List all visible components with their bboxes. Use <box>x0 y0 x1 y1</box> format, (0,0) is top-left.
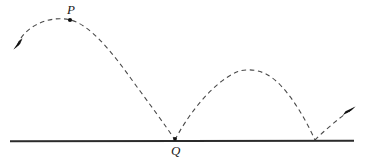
marker-P <box>68 18 72 22</box>
trajectory-svg <box>0 0 366 164</box>
marker-Q <box>173 137 177 141</box>
arc-second-bounce <box>175 70 315 140</box>
arc-third-launch <box>315 112 349 141</box>
label-p: P <box>67 3 75 16</box>
incoming-arrowhead-barb <box>14 39 23 50</box>
bouncing-ball-diagram: P Q <box>0 0 366 164</box>
label-q: Q <box>171 144 180 157</box>
outgoing-arrowhead-barb <box>343 107 356 116</box>
arc-first-bounce <box>18 19 176 140</box>
